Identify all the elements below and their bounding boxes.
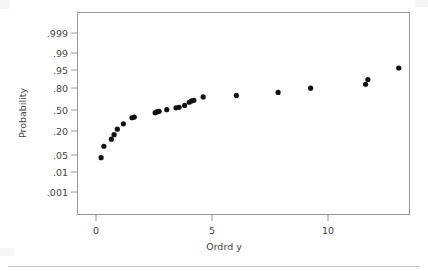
y-tick-label: .99 bbox=[53, 48, 68, 59]
y-tick-label: .50 bbox=[53, 105, 68, 116]
data-point bbox=[234, 93, 239, 98]
y-tick-label: .80 bbox=[53, 83, 68, 94]
data-point bbox=[109, 137, 114, 142]
x-tick-label: 0 bbox=[93, 225, 99, 236]
y-tick-label: .01 bbox=[53, 167, 68, 178]
data-point bbox=[115, 127, 120, 132]
data-point bbox=[121, 121, 126, 126]
y-tick-label: .95 bbox=[53, 65, 68, 76]
probability-plot-canvas: .999 .99 .95 .80 .50 .20 .05 .01 .001 Pr… bbox=[0, 0, 428, 271]
data-point bbox=[132, 115, 137, 120]
data-point bbox=[308, 86, 313, 91]
data-point bbox=[164, 107, 169, 112]
scan-artifact-bottomleft bbox=[0, 248, 14, 256]
y-tick-label: .999 bbox=[47, 28, 68, 39]
data-point bbox=[182, 103, 187, 108]
y-axis-title: Probability bbox=[17, 88, 28, 139]
data-point bbox=[112, 132, 117, 137]
data-point bbox=[157, 109, 162, 114]
data-point bbox=[176, 105, 181, 110]
data-point bbox=[363, 82, 368, 87]
data-point bbox=[276, 90, 281, 95]
scan-artifact-topleft bbox=[0, 0, 10, 9]
x-axis-title: Ordrd y bbox=[206, 241, 242, 252]
data-point bbox=[101, 144, 106, 149]
scan-artifact-topright bbox=[415, 0, 428, 7]
y-tick-label: .20 bbox=[53, 126, 68, 137]
data-point bbox=[396, 65, 401, 70]
probability-plot-figure: .999 .99 .95 .80 .50 .20 .05 .01 .001 Pr… bbox=[0, 0, 428, 271]
x-tick-label: 5 bbox=[209, 225, 215, 236]
data-point bbox=[201, 94, 206, 99]
data-point bbox=[191, 98, 196, 103]
data-point bbox=[99, 155, 104, 160]
y-tick-label: .001 bbox=[47, 187, 68, 198]
x-tick-label: 10 bbox=[322, 225, 334, 236]
y-tick-label: .05 bbox=[53, 150, 68, 161]
data-point bbox=[365, 77, 370, 82]
